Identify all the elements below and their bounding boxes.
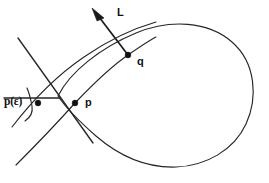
point-marker-q — [125, 52, 131, 58]
figure-canvas — [0, 0, 269, 183]
chord-line-path — [18, 38, 93, 143]
point-marker-p-epsilon — [35, 100, 41, 106]
point-marker-p — [72, 100, 78, 106]
upper-arc-path — [12, 22, 156, 127]
geometry-figure: L q p p(ε) — [0, 0, 269, 183]
point-label-p-epsilon: p(ε) — [4, 96, 22, 108]
point-label-p: p — [85, 97, 92, 108]
normal-vector-arrowhead — [92, 8, 104, 21]
vector-label-L: L — [117, 7, 124, 18]
short-arc-path — [25, 88, 32, 121]
point-label-q: q — [137, 56, 144, 67]
